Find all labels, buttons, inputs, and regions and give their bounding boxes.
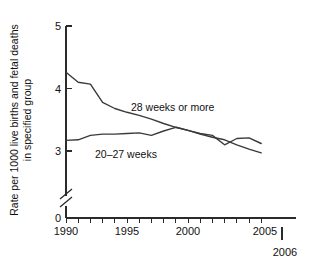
y-tick-label-3: 3 <box>55 145 61 157</box>
y-tick-label-5: 5 <box>55 20 61 32</box>
x-tick-label-1995: 1995 <box>115 225 139 237</box>
line-chart-figure: 5 4 3 0 1990 1995 2000 2005 2006 <box>0 0 323 268</box>
x-tick-label-2000: 2000 <box>176 225 200 237</box>
y-tick-label-0: 0 <box>55 212 61 224</box>
y-axis-title-line1: Rate per 1000 live births and fetal deat… <box>8 24 20 215</box>
series-annotation-28-weeks: 28 weeks or more <box>131 101 215 113</box>
x-tick-label-1990: 1990 <box>54 225 78 237</box>
chart-canvas: 5 4 3 0 1990 1995 2000 2005 2006 <box>0 0 323 268</box>
y-axis-title-group: Rate per 1000 live births and fetal deat… <box>8 24 33 215</box>
y-tick-label-4: 4 <box>55 83 61 95</box>
x-tick-label-2005: 2005 <box>253 225 277 237</box>
y-axis-title-line2: in specified group <box>21 79 33 161</box>
x-end-label-2006: 2006 <box>273 246 297 258</box>
series-annotation-20-27-weeks: 20–27 weeks <box>95 148 157 160</box>
